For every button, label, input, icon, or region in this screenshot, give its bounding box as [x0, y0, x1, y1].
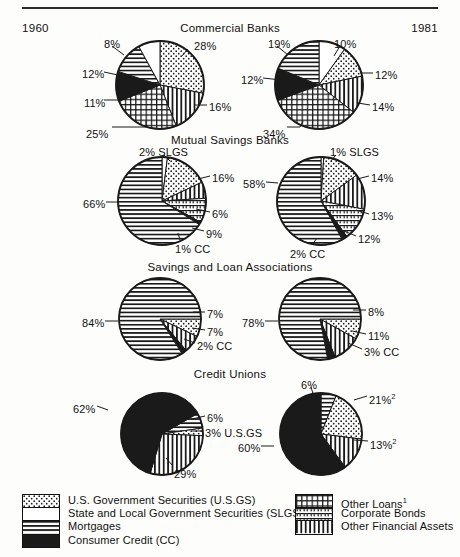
- pie-slice-label: 60%: [238, 442, 260, 454]
- pie-slice-label: 7%: [207, 326, 223, 338]
- pie-slice-label: 11%: [84, 97, 106, 109]
- pie-slice-label: 12%: [82, 68, 104, 80]
- legend-item-label: Corporate Bonds: [341, 507, 453, 520]
- pie-slice-label: 29%: [174, 468, 196, 480]
- pie-chart: [104, 41, 207, 129]
- pie-chart: [106, 155, 210, 245]
- pie-slice-label: 19%: [268, 38, 290, 50]
- pie-slice-label: 13%: [371, 210, 393, 222]
- label-leader-line: [358, 103, 370, 105]
- legend-swatch: [23, 495, 59, 508]
- pie-svg-canvas: [0, 0, 460, 557]
- pie-slice-label: 13%2: [370, 437, 397, 451]
- pie-slice-label: 8%: [368, 306, 384, 318]
- pie-slice-label: 34%: [263, 128, 285, 140]
- pie-slice-label: 2% CC: [197, 340, 232, 352]
- pie-slice-label: 16%: [209, 101, 231, 113]
- legend-swatch: [296, 495, 332, 508]
- pie-slice-label: 11%: [368, 330, 390, 342]
- pie-chart: [97, 393, 205, 475]
- pie-slice-label: 25%: [86, 128, 108, 140]
- footnote-marker: 1: [403, 496, 407, 505]
- legend-item-label: Other Loans1: [341, 494, 453, 507]
- pie-slice-label: 2% CC: [290, 248, 325, 260]
- legend-swatch: [23, 535, 59, 547]
- pie-slice-label: 66%: [83, 198, 105, 210]
- legend-column-right: Other Loans1Corporate BondsOther Financi…: [295, 494, 453, 534]
- pie-slice-label: 78%: [242, 317, 264, 329]
- pie-slice-label: 12%: [375, 69, 397, 81]
- legend-swatch-stack-left: [22, 494, 60, 548]
- legend-column-left: U.S. Government Securities (U.S.GS)State…: [22, 494, 304, 547]
- pie-slice-label: 6%: [207, 412, 223, 424]
- legend-item-label: Consumer Credit (CC): [68, 534, 304, 547]
- legend-labels-left: U.S. Government Securities (U.S.GS)State…: [68, 494, 304, 547]
- legend-swatch: [296, 521, 332, 533]
- pie-slice-label: 6%: [212, 208, 228, 220]
- footnote-marker: 2: [392, 437, 396, 446]
- pie-slice-label: 1% CC: [175, 243, 210, 255]
- pie-chart: [265, 278, 366, 360]
- pie-slice-label: 1% SLGS: [330, 146, 379, 158]
- pie-slice-label: 14%: [371, 172, 393, 184]
- pie-slice-label: 12%: [358, 233, 380, 245]
- legend: U.S. Government Securities (U.S.GS)State…: [0, 488, 460, 557]
- pie-slice-label: 62%: [73, 403, 95, 415]
- footnote-marker: 2: [391, 392, 395, 401]
- pie-slice-label: 12%: [241, 74, 263, 86]
- pie-slice-label: 9%: [206, 228, 222, 240]
- figure-root: 1960 1981 Commercial BanksMutual Savings…: [0, 0, 460, 557]
- pie-chart: [105, 278, 205, 360]
- legend-item-label: Other Financial Assets: [341, 520, 453, 533]
- label-leader-line: [97, 406, 108, 410]
- label-leader-line: [354, 396, 367, 400]
- pie-slice-label: 58%: [243, 178, 265, 190]
- pie-slice-label: 8%: [104, 38, 120, 50]
- legend-swatch: [23, 521, 59, 534]
- pie-chart: [266, 155, 369, 245]
- pie-chart: [263, 41, 373, 129]
- legend-item-label: State and Local Government Securities (S…: [68, 507, 304, 520]
- legend-swatch: [296, 508, 332, 521]
- pie-slice-label: 3% U.S.GS: [205, 427, 262, 439]
- pie-slice-label: 28%: [194, 40, 216, 52]
- pie-slice-label: 2% SLGS: [139, 146, 188, 158]
- legend-item-label: Mortgages: [68, 520, 304, 533]
- pie-slice-label: 10%: [334, 38, 356, 50]
- legend-item-label: U.S. Government Securities (U.S.GS): [68, 494, 304, 507]
- pie-slice-label: 16%: [212, 172, 234, 184]
- label-leader-line: [266, 182, 278, 183]
- pie-slice-label: 3% CC: [364, 346, 399, 358]
- pie-slice-label: 21%2: [369, 392, 396, 406]
- legend-labels-right: Other Loans1Corporate BondsOther Financi…: [341, 494, 453, 534]
- legend-swatch: [23, 508, 59, 521]
- legend-swatch-stack-right: [295, 494, 333, 535]
- pie-slice-label: 84%: [82, 317, 104, 329]
- pie-slice-label: 14%: [372, 101, 394, 113]
- pie-chart: [261, 387, 368, 475]
- pie-slice-label: 6%: [301, 379, 317, 391]
- pie-slice-label: 7%: [207, 308, 223, 320]
- label-leader-line: [104, 72, 118, 75]
